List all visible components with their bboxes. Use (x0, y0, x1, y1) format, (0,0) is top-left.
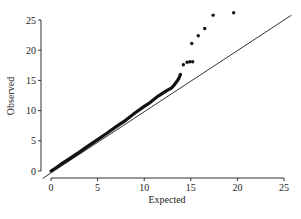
y-tick-label: 10 (26, 105, 36, 116)
data-point (191, 60, 194, 63)
data-point (211, 13, 214, 16)
y-axis: 0510152025 (26, 15, 41, 177)
y-axis-label: Observed (5, 77, 16, 115)
y-tick-label: 5 (31, 135, 36, 146)
y-tick-label: 25 (26, 15, 36, 26)
data-point (203, 27, 206, 30)
data-point (182, 63, 185, 66)
reference-line (43, 15, 292, 178)
data-point (232, 11, 235, 14)
y-tick-label: 15 (26, 75, 36, 86)
y-tick-label: 0 (31, 166, 36, 177)
x-tick-label: 0 (49, 182, 54, 193)
x-axis: 0510152025 (49, 178, 290, 193)
y-tick-label: 20 (26, 45, 36, 56)
qq-plot: 0510152025 0510152025 Expected Observed (0, 0, 301, 219)
x-tick-label: 10 (139, 182, 149, 193)
data-point (190, 42, 193, 45)
x-tick-label: 15 (186, 182, 196, 193)
data-points (182, 11, 236, 66)
dense-point-band (51, 74, 181, 171)
data-point (185, 61, 188, 64)
data-point (197, 34, 200, 37)
x-tick-label: 25 (279, 182, 289, 193)
x-axis-label: Expected (148, 194, 185, 205)
x-tick-label: 5 (95, 182, 100, 193)
x-tick-label: 20 (232, 182, 242, 193)
